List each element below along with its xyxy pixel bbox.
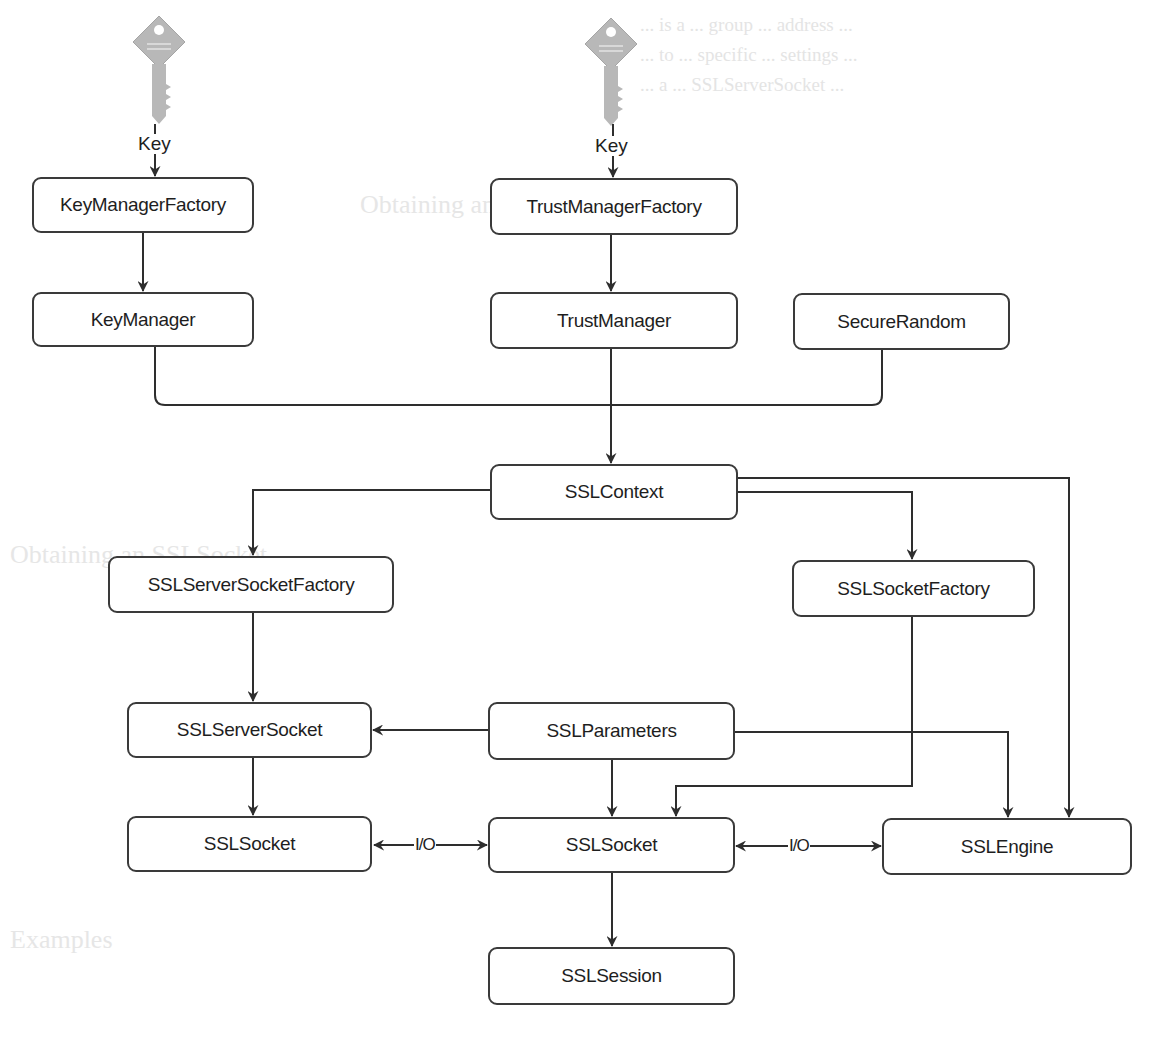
node-ssl-socket-server[interactable]: SSLSocket <box>488 817 735 873</box>
node-trust-manager[interactable]: TrustManager <box>490 292 738 349</box>
key-label: Key <box>137 134 172 154</box>
key-icon <box>133 16 185 124</box>
key-icon <box>585 18 637 126</box>
node-ssl-socket-factory[interactable]: SSLSocketFactory <box>792 560 1035 617</box>
node-ssl-server-socket[interactable]: SSLServerSocket <box>127 702 372 758</box>
node-trust-manager-factory[interactable]: TrustManagerFactory <box>490 178 738 235</box>
io-label: I/O <box>788 837 810 855</box>
node-ssl-engine[interactable]: SSLEngine <box>882 818 1132 875</box>
node-secure-random[interactable]: SecureRandom <box>793 293 1010 350</box>
node-ssl-context[interactable]: SSLContext <box>490 464 738 520</box>
node-key-manager-factory[interactable]: KeyManagerFactory <box>32 177 254 233</box>
key-label: Key <box>594 136 629 156</box>
io-label: I/O <box>414 836 436 854</box>
diagram-canvas: ... is a ... group ... address ... ... t… <box>0 0 1158 1037</box>
node-key-manager[interactable]: KeyManager <box>32 292 254 347</box>
node-ssl-socket-client[interactable]: SSLSocket <box>127 816 372 872</box>
node-ssl-session[interactable]: SSLSession <box>488 947 735 1005</box>
node-ssl-server-socket-factory[interactable]: SSLServerSocketFactory <box>108 556 394 613</box>
node-ssl-parameters[interactable]: SSLParameters <box>488 702 735 760</box>
